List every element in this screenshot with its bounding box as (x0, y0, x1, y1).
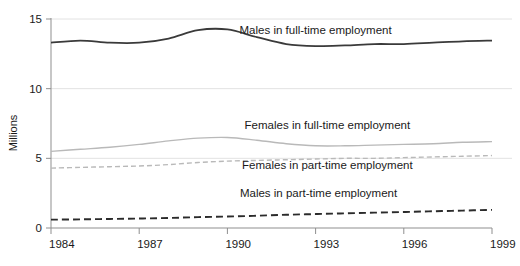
y-tick-label-15: 15 (29, 13, 42, 25)
x-axis-ticks: 198419871990199319961999 (49, 228, 516, 250)
series-labels: Males in full-time employmentFemales in … (240, 24, 414, 200)
series-line-3 (51, 210, 492, 220)
gridlines (51, 19, 512, 158)
x-tick-label-1993: 1993 (314, 238, 340, 250)
y-tick-label-0: 0 (36, 222, 42, 234)
y-tick-label-5: 5 (36, 152, 42, 164)
series-label-0: Males in full-time employment (240, 24, 393, 36)
y-axis-ticks: 051015 (29, 13, 51, 234)
series-label-1: Females in full-time employment (245, 119, 411, 131)
x-tick-label-1999: 1999 (490, 238, 516, 250)
chart-svg: 051015198419871990199319961999MillionsMa… (0, 0, 520, 266)
x-tick-label-1987: 1987 (137, 238, 163, 250)
y-tick-label-10: 10 (29, 83, 42, 95)
series-label-2: Females in part-time employment (242, 159, 413, 171)
series-label-3: Males in part-time employment (240, 187, 398, 199)
x-tick-label-1984: 1984 (49, 238, 75, 250)
series-line-1 (51, 137, 492, 151)
employment-line-chart: 051015198419871990199319961999MillionsMa… (0, 0, 520, 266)
x-tick-label-1990: 1990 (225, 238, 251, 250)
y-axis-title: Millions (7, 114, 19, 151)
x-tick-label-1996: 1996 (402, 238, 428, 250)
